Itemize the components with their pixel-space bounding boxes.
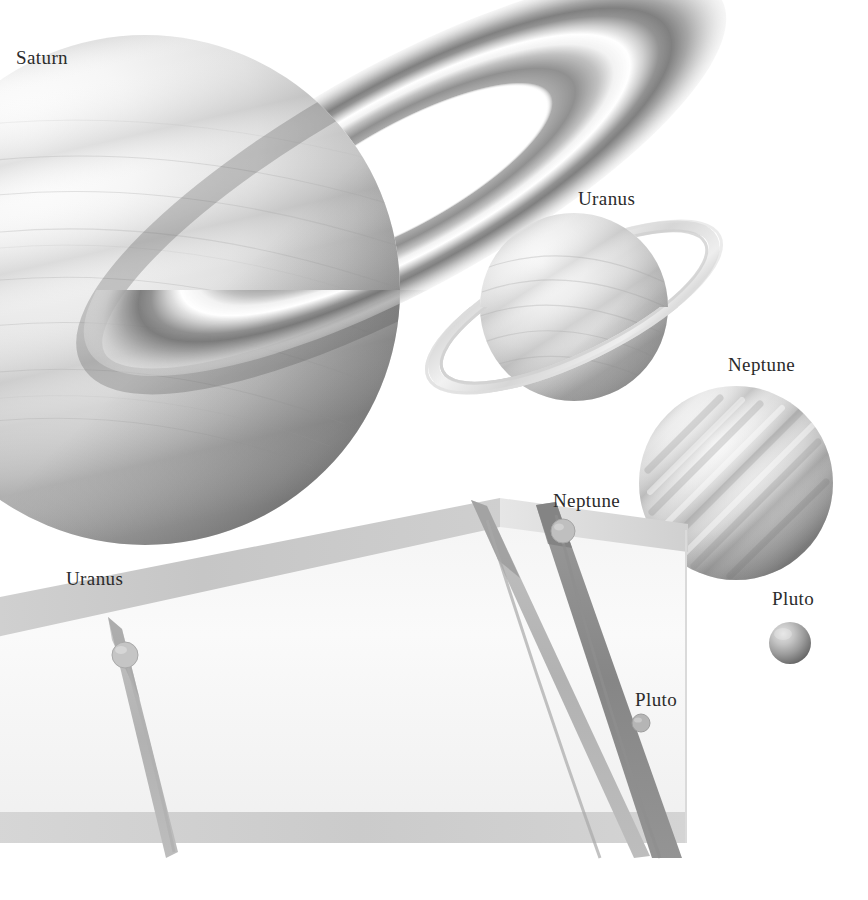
illustration-svg [0, 0, 868, 900]
orbit-diagram [0, 498, 688, 858]
label-neptune-orbit: Neptune [553, 490, 620, 512]
orbit-marker-neptune [551, 519, 575, 543]
label-pluto-orbit: Pluto [635, 689, 677, 711]
label-uranus-orbit: Uranus [66, 568, 123, 590]
label-neptune-body: Neptune [728, 354, 795, 376]
plane-bottom-edge [0, 812, 686, 843]
label-pluto-body: Pluto [772, 588, 814, 610]
orbit-marker-pluto [632, 714, 650, 732]
label-uranus-body: Uranus [578, 188, 635, 210]
orbit-marker-uranus [112, 642, 138, 668]
figure-canvas: Saturn Uranus Neptune Pluto Uranus Neptu… [0, 0, 868, 900]
label-saturn: Saturn [16, 47, 68, 69]
pluto-body [769, 622, 811, 664]
